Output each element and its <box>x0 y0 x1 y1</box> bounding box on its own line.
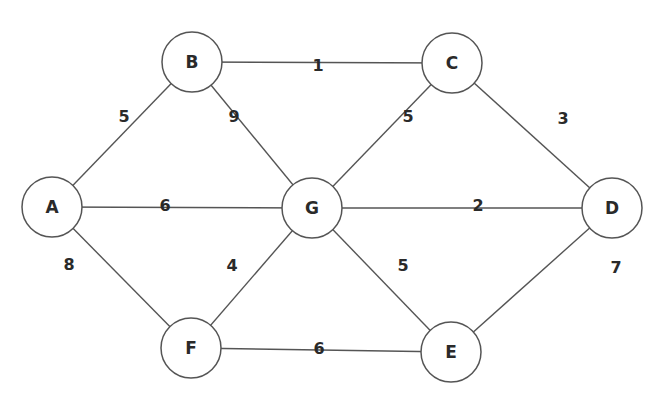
edge-weight-F-G: 4 <box>226 256 237 275</box>
node-label: F <box>185 338 197 358</box>
edge-weight-G-E: 5 <box>397 256 408 275</box>
graph-svg: 519684532576 ABCDEFG <box>0 0 657 396</box>
edge-weight-F-E: 6 <box>313 339 324 358</box>
node-D: D <box>582 178 642 238</box>
edge-weight-A-F: 8 <box>63 255 74 274</box>
node-A: A <box>22 177 82 237</box>
graph-diagram: 519684532576 ABCDEFG <box>0 0 657 396</box>
edge-C-D <box>452 63 612 208</box>
edge-weight-D-E: 7 <box>610 258 621 277</box>
node-C: C <box>422 33 482 93</box>
node-F: F <box>161 318 221 378</box>
node-E: E <box>421 322 481 382</box>
node-label: A <box>45 197 59 217</box>
node-label: B <box>186 52 199 72</box>
edge-D-E <box>451 208 612 352</box>
edge-weight-A-B: 5 <box>118 107 129 126</box>
node-G: G <box>282 178 342 238</box>
edge-A-G <box>52 207 312 208</box>
node-label: G <box>305 198 319 218</box>
edge-weight-B-C: 1 <box>312 56 323 75</box>
node-label: E <box>445 342 457 362</box>
edge-weight-B-G: 9 <box>228 107 239 126</box>
edge-weight-C-G: 5 <box>402 107 413 126</box>
node-B: B <box>162 32 222 92</box>
edge-weight-G-D: 2 <box>472 196 483 215</box>
edge-weight-C-D: 3 <box>557 109 568 128</box>
edge-weight-A-G: 6 <box>159 196 170 215</box>
node-label: D <box>605 198 619 218</box>
node-label: C <box>446 53 458 73</box>
